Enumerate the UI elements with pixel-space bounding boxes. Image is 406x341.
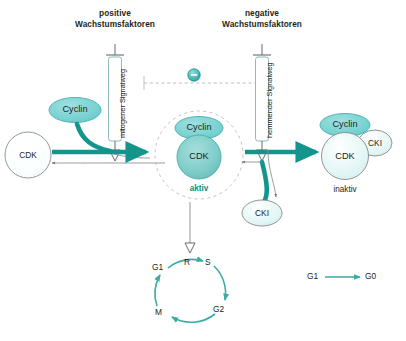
right-cyclin-label: Cyclin — [320, 119, 370, 129]
cell-cycle-phase-g2: G2 — [213, 304, 224, 314]
center-cyclin-label: Cyclin — [174, 122, 224, 132]
inhibition-link — [144, 76, 256, 90]
assembly-arrow-left — [52, 124, 146, 152]
diagram-canvas: positive Wachstumsfaktoren negative Wach… — [0, 0, 406, 341]
header-positive-growth-factors: positive Wachstumsfaktoren — [60, 8, 170, 29]
header-negative-line1: negative — [207, 8, 317, 19]
left-cdk-label: CDK — [8, 150, 48, 160]
cell-cycle-phase-s: S — [205, 257, 211, 267]
right-cki-label: CKI — [363, 138, 387, 148]
header-positive-line1: positive — [60, 8, 170, 19]
inhibitory-pathway-label: hemmender Signalweg — [265, 62, 274, 138]
left-cyclin-label: Cyclin — [50, 104, 100, 114]
diagram-vector-layer — [0, 0, 406, 341]
header-negative-line2: Wachstumsfaktoren — [207, 19, 317, 30]
quiescence-from-label: G1 — [307, 271, 318, 281]
free-cki-label: CKI — [248, 208, 276, 218]
center-cdk-label: CDK — [179, 151, 219, 161]
header-negative-growth-factors: negative Wachstumsfaktoren — [207, 8, 317, 29]
right-cdk-label: CDK — [325, 151, 365, 161]
inactivation-arrow — [242, 150, 316, 202]
header-positive-line2: Wachstumsfaktoren — [60, 19, 170, 30]
cellcycle-entry-arrow — [185, 202, 195, 253]
cell-cycle-phase-m: M — [155, 307, 162, 317]
minus-sign-icon — [188, 69, 200, 81]
cell-cycle-restriction-point: R — [184, 257, 190, 267]
center-state-label: aktiv — [179, 184, 219, 193]
mitogenic-pathway-label: mitogener Signalweg — [118, 69, 127, 138]
right-state-label: inaktiv — [320, 185, 370, 194]
quiescence-to-label: G0 — [365, 271, 376, 281]
cell-cycle-phase-g1: G1 — [152, 262, 163, 272]
